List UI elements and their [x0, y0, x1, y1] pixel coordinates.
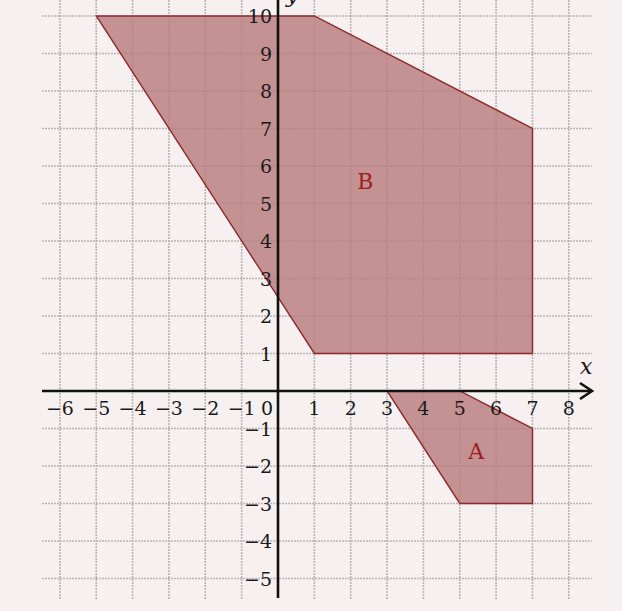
x-tick-label: 4 — [417, 397, 429, 419]
x-tick-label: 7 — [526, 397, 538, 419]
y-tick-label: 3 — [260, 268, 272, 290]
y-tick-label: 4 — [260, 230, 272, 252]
region-b — [96, 16, 532, 354]
y-tick-label: 8 — [260, 80, 272, 102]
y-tick-label: 7 — [260, 118, 272, 140]
y-tick-label: 5 — [260, 193, 272, 215]
y-tick-label: 6 — [260, 155, 272, 177]
y-tick-label: 10 — [248, 5, 272, 27]
x-tick-label: −5 — [82, 397, 110, 419]
y-axis-label: y — [285, 0, 299, 7]
y-tick-label: −1 — [244, 418, 272, 440]
x-tick-label: −6 — [46, 397, 74, 419]
coordinate-plane: −6−5−4−3−2−1012345678−5−4−3−2−1123456789… — [0, 0, 622, 611]
x-tick-label: 1 — [308, 397, 320, 419]
region-label-a: A — [467, 439, 485, 464]
x-tick-label: −1 — [228, 397, 256, 419]
region-label-b: B — [357, 169, 373, 194]
y-tick-label: 1 — [260, 343, 272, 365]
y-tick-label: −5 — [244, 568, 272, 590]
x-tick-label: −2 — [191, 397, 219, 419]
x-tick-label: 8 — [563, 397, 575, 419]
x-axis-label: x — [580, 354, 593, 379]
y-tick-label: 2 — [260, 305, 272, 327]
x-tick-label: −3 — [155, 397, 183, 419]
y-tick-label: 9 — [260, 43, 272, 65]
y-tick-label: −4 — [244, 530, 272, 552]
x-tick-label: 3 — [381, 397, 393, 419]
x-tick-label: −4 — [119, 397, 147, 419]
x-tick-label: 5 — [454, 397, 466, 419]
y-tick-label: −3 — [244, 493, 272, 515]
x-tick-label: 6 — [490, 397, 502, 419]
y-tick-label: −2 — [244, 455, 272, 477]
x-tick-label: 0 — [261, 397, 273, 419]
x-tick-label: 2 — [345, 397, 357, 419]
